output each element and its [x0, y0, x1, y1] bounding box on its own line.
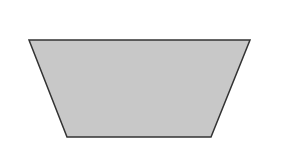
trapezoid-shape	[29, 40, 250, 137]
trapezoid-diagram	[0, 0, 285, 158]
